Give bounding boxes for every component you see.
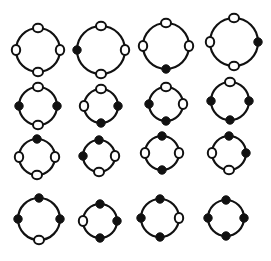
open-bead-right [121, 45, 129, 55]
ring-r1-c3 [207, 78, 253, 124]
ring-outline [143, 23, 189, 69]
filled-bead-bottom [162, 65, 170, 73]
open-bead-bottom [32, 171, 42, 179]
filled-bead-left [204, 214, 212, 222]
filled-bead-right [56, 215, 64, 223]
ring-r2-c0 [15, 135, 59, 179]
ring-outline [18, 198, 60, 240]
ring-r2-c2 [141, 132, 183, 174]
filled-bead-top [33, 135, 41, 143]
ring-r1-c2 [145, 83, 187, 125]
open-bead-top [33, 83, 43, 91]
open-bead-right [179, 99, 187, 109]
filled-bead-bottom [96, 234, 104, 242]
ring-r0-c0 [12, 24, 64, 76]
ring-grid-svg [0, 0, 271, 261]
filled-bead-left [137, 214, 145, 222]
ring-r3-c2 [137, 195, 183, 241]
filled-bead-bottom [158, 166, 166, 174]
open-bead-left [206, 37, 214, 47]
ring-r3-c3 [204, 196, 248, 240]
filled-bead-right [254, 38, 262, 46]
ring-r2-c3 [208, 132, 250, 174]
filled-bead-top [158, 132, 166, 140]
open-bead-left [139, 41, 147, 51]
ring-r0-c2 [139, 19, 193, 73]
ring-outline [77, 26, 125, 74]
ring-r1-c0 [15, 83, 61, 129]
filled-bead-top [222, 196, 230, 204]
filled-bead-bottom [226, 116, 234, 124]
ring-r0-c3 [206, 14, 262, 70]
open-bead-left [15, 152, 23, 162]
filled-bead-bottom [97, 119, 105, 127]
filled-bead-right [240, 214, 248, 222]
filled-bead-right [53, 102, 61, 110]
open-bead-bottom [33, 68, 43, 76]
filled-bead-top [96, 200, 104, 208]
open-bead-bottom [94, 168, 104, 176]
ring-outline [16, 28, 60, 72]
open-bead-bottom [96, 70, 106, 78]
filled-bead-right [113, 217, 121, 225]
open-bead-left [79, 216, 87, 226]
open-bead-bottom [224, 166, 234, 174]
filled-bead-left [79, 152, 87, 160]
filled-bead-top [225, 132, 233, 140]
filled-bead-left [145, 100, 153, 108]
ring-outline [211, 82, 249, 120]
ring-r3-c0 [14, 194, 64, 244]
filled-bead-top [95, 136, 103, 144]
filled-bead-top [35, 194, 43, 202]
open-bead-top [225, 78, 235, 86]
open-bead-left [80, 101, 88, 111]
filled-bead-left [207, 97, 215, 105]
ring-r1-c1 [80, 85, 122, 127]
open-bead-left [141, 148, 149, 158]
open-bead-right [185, 41, 193, 51]
ring-r2-c1 [79, 136, 119, 176]
ring-r3-c1 [79, 200, 121, 242]
open-bead-top [96, 85, 106, 93]
open-bead-top [96, 22, 106, 30]
open-bead-top [229, 14, 239, 22]
ring-outline [208, 200, 244, 236]
open-bead-right [51, 152, 59, 162]
open-bead-top [33, 24, 43, 32]
open-bead-right [175, 213, 183, 223]
filled-bead-left [15, 102, 23, 110]
open-bead-bottom [229, 62, 239, 70]
ring-outline [19, 139, 55, 175]
ring-outline [19, 87, 57, 125]
open-bead-left [12, 45, 20, 55]
open-bead-bottom [33, 121, 43, 129]
open-bead-top [161, 19, 171, 27]
filled-bead-right [245, 97, 253, 105]
ring-r0-c1 [73, 22, 129, 78]
filled-bead-right [114, 102, 122, 110]
open-bead-bottom [34, 236, 44, 244]
filled-bead-top [156, 195, 164, 203]
open-bead-right [175, 148, 183, 158]
open-bead-right [111, 151, 119, 161]
ring-outline [210, 18, 258, 66]
open-bead-left [208, 148, 216, 158]
filled-bead-bottom [156, 233, 164, 241]
filled-bead-bottom [222, 232, 230, 240]
ring-grid-figure [0, 0, 271, 261]
filled-bead-left [73, 46, 81, 54]
open-bead-right [56, 45, 64, 55]
ring-outline [141, 199, 179, 237]
open-bead-top [161, 83, 171, 91]
filled-bead-bottom [162, 117, 170, 125]
filled-bead-left [14, 215, 22, 223]
filled-bead-right [242, 149, 250, 157]
